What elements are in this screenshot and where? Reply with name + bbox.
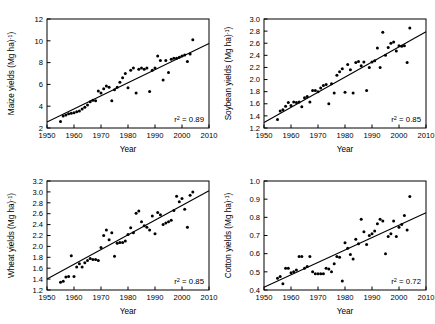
x-tick-label: 1980	[120, 293, 137, 302]
data-point	[330, 270, 333, 273]
data-point	[341, 279, 344, 282]
data-point	[379, 218, 382, 221]
data-point	[308, 100, 311, 103]
data-point	[290, 271, 293, 274]
x-tick-label: 1960	[283, 293, 300, 302]
data-point	[330, 82, 333, 85]
data-point	[102, 234, 105, 237]
data-point	[145, 226, 148, 229]
plot-frame	[264, 19, 426, 128]
y-tick-label: 3.2	[32, 177, 43, 186]
data-point	[159, 59, 162, 62]
y-tick-label: 3.0	[32, 188, 43, 197]
y-tick-label: 1.4	[32, 275, 43, 284]
cotton-plot: 19501960197019801990200020100.40.50.60.7…	[217, 162, 435, 324]
data-point	[327, 268, 330, 271]
wheat-plot: 19501960197019801990200020101.21.41.61.8…	[0, 162, 218, 324]
x-axis-title: Year	[337, 145, 354, 154]
y-tick-label: 8	[39, 58, 43, 67]
data-point	[395, 50, 398, 53]
data-point	[132, 67, 135, 70]
data-point	[346, 247, 349, 250]
data-point	[319, 87, 322, 90]
data-point	[389, 42, 392, 45]
y-axis-title: Cotton yields (Mg ha)-1)	[224, 192, 233, 278]
soybean-plot: 19501960197019801990200020101.21.41.61.8…	[217, 0, 435, 162]
data-point	[64, 113, 67, 116]
data-point	[110, 231, 113, 234]
x-tick-label: 2000	[391, 293, 408, 302]
data-point	[300, 255, 303, 258]
r-squared-annotation: r2 = 0.85	[391, 115, 421, 124]
data-point	[186, 60, 189, 63]
data-point	[376, 47, 379, 50]
data-point	[362, 230, 365, 233]
data-point	[164, 59, 167, 62]
x-axis-title: Year	[120, 307, 137, 316]
data-point	[154, 67, 157, 70]
data-point	[151, 214, 154, 217]
y-tick-label: 2.0	[32, 242, 43, 251]
y-tick-label: 1.8	[249, 87, 260, 96]
data-point	[94, 258, 97, 261]
y-tick-label: 1.6	[32, 264, 43, 273]
data-point	[387, 235, 390, 238]
data-point	[308, 255, 311, 258]
data-point	[164, 221, 167, 224]
y-tick-label: 1.8	[32, 253, 43, 262]
scatter-points	[276, 27, 411, 121]
data-point	[389, 232, 392, 235]
data-point	[118, 241, 121, 244]
x-tick-label: 2010	[201, 293, 218, 302]
data-point	[186, 226, 189, 229]
x-tick-label: 2010	[418, 293, 435, 302]
data-point	[376, 222, 379, 225]
scatter-points	[276, 195, 411, 285]
data-point	[121, 76, 124, 79]
y-tick-label: 2.6	[249, 39, 260, 48]
data-point	[368, 234, 371, 237]
data-point	[406, 61, 409, 64]
data-point	[167, 71, 170, 74]
y-tick-label: 1.6	[249, 99, 260, 108]
x-tick-label: 1990	[364, 293, 381, 302]
data-point	[311, 270, 314, 273]
data-point	[344, 91, 347, 94]
data-point	[189, 52, 192, 55]
data-point	[384, 252, 387, 255]
y-tick-label: 0.8	[249, 213, 260, 222]
data-point	[276, 118, 279, 121]
data-point	[303, 96, 306, 99]
data-point	[148, 90, 151, 93]
data-point	[124, 239, 127, 242]
data-point	[81, 107, 84, 110]
data-point	[137, 209, 140, 212]
data-point	[59, 281, 62, 284]
data-point	[287, 101, 290, 104]
r-squared-annotation: r2 = 0.72	[391, 277, 421, 286]
y-tick-label: 3.0	[249, 15, 260, 24]
data-point	[290, 104, 293, 107]
data-point	[284, 267, 287, 270]
data-point	[306, 265, 309, 268]
y-axis-title: Soybean yields (Mg ha)-1)	[224, 26, 233, 120]
data-point	[175, 195, 178, 198]
data-point	[284, 105, 287, 108]
data-point	[360, 64, 363, 67]
data-point	[314, 272, 317, 275]
data-point	[303, 267, 306, 270]
data-point	[89, 257, 92, 260]
data-point	[91, 258, 94, 261]
x-tick-label: 1970	[310, 131, 327, 140]
data-point	[108, 238, 111, 241]
data-point	[86, 104, 89, 107]
data-point	[62, 280, 65, 283]
data-point	[352, 91, 355, 94]
data-point	[379, 66, 382, 69]
y-tick-label: 1.0	[249, 177, 260, 186]
y-tick-label: 1.4	[249, 112, 260, 121]
data-point	[129, 226, 132, 229]
data-point	[118, 81, 121, 84]
data-point	[392, 41, 395, 44]
data-point	[300, 105, 303, 108]
